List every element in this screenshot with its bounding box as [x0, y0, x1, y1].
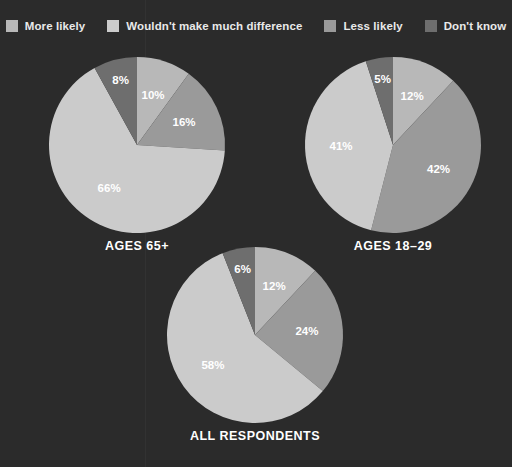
legend-item-label: Wouldn't make much difference — [126, 20, 302, 32]
pie-chart-all-respondents: 12%24%58%6%ALL RESPONDENTS — [167, 247, 343, 423]
pie-slice-label: 41% — [330, 140, 353, 152]
pie-slice-label: 66% — [98, 182, 121, 194]
pie-chart-title: ALL RESPONDENTS — [167, 429, 343, 443]
legend-item[interactable]: More likely — [6, 20, 86, 32]
chart-legend: More likelyWouldn't make much difference… — [0, 18, 512, 34]
pie-slice-label: 10% — [142, 89, 165, 101]
legend-swatch-icon — [425, 20, 437, 32]
legend-swatch-icon — [324, 20, 336, 32]
pie-slice-label: 12% — [401, 90, 424, 102]
pie-chart-ages-18-29: 12%42%41%5%AGES 18–29 — [305, 57, 481, 233]
pie-slice-label: 5% — [374, 73, 391, 85]
pie-svg: 12%42%41%5% — [305, 57, 481, 233]
pie-chart-ages-65-plus: 10%16%66%8%AGES 65+ — [49, 57, 225, 233]
legend-item[interactable]: Less likely — [324, 20, 402, 32]
pie-slice-label: 8% — [112, 74, 129, 86]
pie-svg: 10%16%66%8% — [49, 57, 225, 233]
pie-svg: 12%24%58%6% — [167, 247, 343, 423]
pie-slice-label: 16% — [173, 116, 196, 128]
legend-item-label: Don't know — [444, 20, 507, 32]
pie-slice-label: 24% — [295, 325, 318, 337]
legend-item[interactable]: Don't know — [425, 20, 507, 32]
legend-item[interactable]: Wouldn't make much difference — [107, 20, 302, 32]
pie-slice-label: 12% — [263, 280, 286, 292]
legend-swatch-icon — [107, 20, 119, 32]
legend-item-label: Less likely — [343, 20, 402, 32]
legend-item-label: More likely — [25, 20, 86, 32]
pie-slice-label: 58% — [201, 359, 224, 371]
pie-slice-label: 42% — [427, 163, 450, 175]
legend-swatch-icon — [6, 20, 18, 32]
pie-slice-label: 6% — [234, 263, 251, 275]
